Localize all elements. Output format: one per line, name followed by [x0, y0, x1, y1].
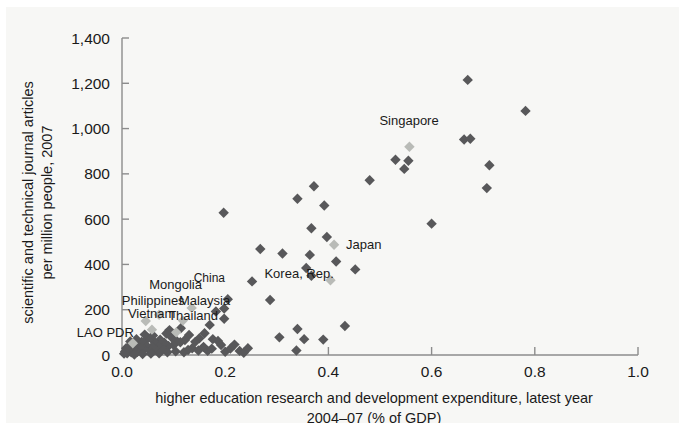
data-point: [309, 181, 319, 191]
x-tick-label: 0.0: [111, 363, 133, 380]
data-point: [520, 106, 530, 116]
data-point: [265, 295, 275, 305]
y-tick-label: 1,400: [71, 30, 110, 47]
data-point: [305, 250, 315, 260]
highlighted-data-point: [404, 141, 414, 151]
y-tick-label: 1,000: [71, 120, 110, 137]
page-margin-left: [0, 0, 6, 447]
y-tick-label: 800: [84, 165, 110, 182]
point-label: Malaysia: [179, 293, 231, 308]
data-point: [274, 332, 284, 342]
data-point: [292, 324, 302, 334]
data-point: [299, 334, 309, 344]
data-point: [219, 314, 229, 324]
y-tick-label: 1,200: [71, 75, 110, 92]
data-point: [292, 194, 302, 204]
page-margin-top: [0, 0, 687, 7]
data-point: [426, 218, 436, 228]
highlighted-data-point: [329, 240, 339, 250]
data-point: [482, 183, 492, 193]
data-point: [247, 276, 257, 286]
point-label: LAO PDR: [77, 325, 134, 340]
data-point: [364, 175, 374, 185]
x-tick-label: 0.4: [318, 363, 340, 380]
data-point: [465, 134, 475, 144]
data-point: [484, 160, 494, 170]
data-point: [390, 155, 400, 165]
data-point: [291, 345, 301, 355]
x-tick-label: 0.8: [524, 363, 546, 380]
data-point: [350, 264, 360, 274]
x-tick-label: 1.0: [627, 363, 649, 380]
point-annotations: SingaporeJapanKorea, Rep.MongoliaChinaPh…: [77, 113, 439, 341]
y-tick-label: 400: [84, 256, 110, 273]
page-margin-bottom: [0, 423, 687, 447]
y-axis-title-line2: per million people, 2007: [39, 126, 55, 280]
data-point: [306, 223, 316, 233]
data-point: [318, 334, 328, 344]
point-label: Japan: [346, 237, 381, 252]
data-point: [331, 256, 341, 266]
point-label: China: [194, 271, 226, 285]
point-label: Singapore: [379, 113, 438, 128]
data-point: [463, 75, 473, 85]
point-label: Thailand: [168, 308, 218, 323]
data-point: [218, 208, 228, 218]
scatter-plot: 02004006008001,0001,2001,400 0.00.20.40.…: [0, 0, 687, 447]
x-axis-title-line1: higher education research and developmen…: [155, 390, 593, 406]
data-point: [322, 232, 332, 242]
chart-figure: 02004006008001,0001,2001,400 0.00.20.40.…: [0, 0, 687, 447]
data-point: [255, 244, 265, 254]
y-axis-ticks: 02004006008001,0001,2001,400: [71, 30, 129, 364]
page-margin-right: [679, 0, 687, 447]
x-tick-label: 0.6: [421, 363, 443, 380]
y-tick-label: 200: [84, 301, 110, 318]
data-point: [340, 321, 350, 331]
data-point: [319, 200, 329, 210]
point-label: Korea, Rep.: [264, 266, 333, 281]
y-tick-label: 600: [84, 211, 110, 228]
y-axis-title-line1: scientific and technical journal article…: [20, 81, 36, 324]
data-point: [277, 248, 287, 258]
x-tick-label: 0.2: [214, 363, 236, 380]
y-tick-label: 0: [101, 347, 110, 364]
